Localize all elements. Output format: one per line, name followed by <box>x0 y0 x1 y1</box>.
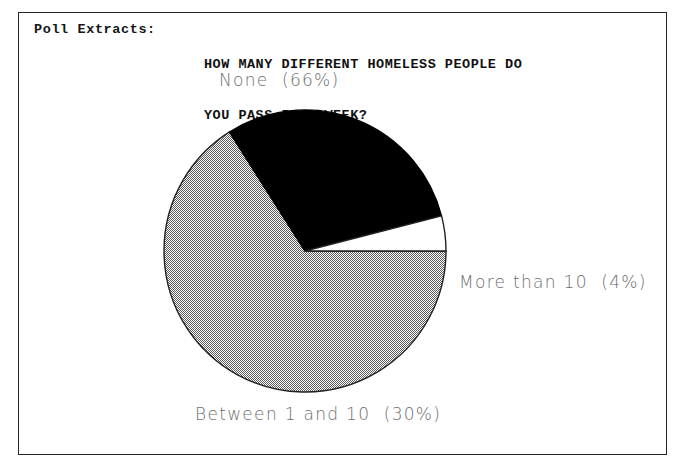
pie-label-between-1-and-10: Between 1 and 10 (30%) <box>195 404 441 424</box>
chart-title-line-2: YOU PASS IN A WEEK? <box>204 107 522 124</box>
page-canvas: Poll Extracts: HOW MANY DIFFERENT HOMELE… <box>0 0 686 472</box>
pie-label-none: None (66%) <box>219 70 340 90</box>
pie-label-more-than-10: More than 10 (4%) <box>459 272 647 292</box>
chart-header: Poll Extracts: HOW MANY DIFFERENT HOMELE… <box>18 12 667 72</box>
page-title: HOW MANY DIFFERENT HOMELESS PEOPLE DO YO… <box>204 22 522 158</box>
poll-extracts-label: Poll Extracts: <box>34 22 156 37</box>
